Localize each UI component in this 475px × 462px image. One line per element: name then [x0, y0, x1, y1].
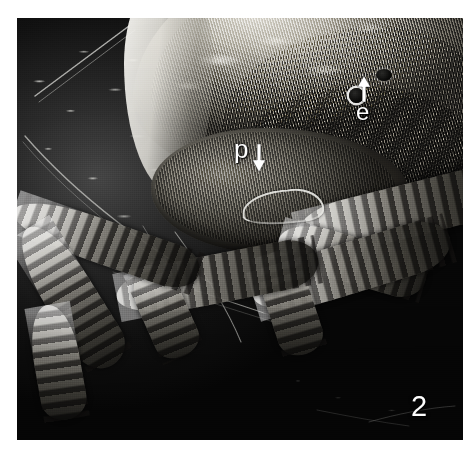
annotation-label-e: e: [356, 100, 369, 124]
annotation-label-p: p: [234, 136, 248, 162]
sem-micrograph-plate: [17, 18, 463, 440]
down-arrow-icon: [249, 142, 269, 174]
figure-number: 2: [411, 392, 427, 421]
figure-page: e p 2: [0, 0, 475, 462]
tone-curve-overlay: [17, 18, 463, 440]
